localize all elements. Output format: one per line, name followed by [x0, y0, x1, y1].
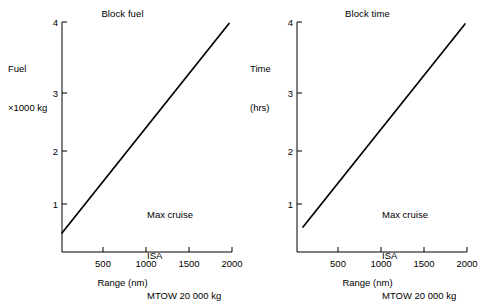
y-axis-label-line-1: Fuel [8, 62, 47, 75]
y-axis-label-line-1: Time [250, 62, 271, 75]
y-tick-label-2: 2 [279, 146, 293, 157]
annotation-line-2: ISA [147, 249, 221, 263]
y-axis-label-block-fuel: Fuel ×1000 kg [8, 36, 47, 140]
annotation-block-time: Max cruise ISA MTOW 20 000 kg [382, 181, 456, 305]
annotation-line-3: MTOW 20 000 kg [382, 289, 456, 303]
y-tick-label-2: 2 [44, 146, 58, 157]
annotation-line-1: Max cruise [382, 208, 456, 222]
chart-panel-block-time: Block time 4 3 2 1 500 1000 1500 2000 Ti… [245, 0, 490, 299]
y-tick-label-4: 4 [44, 17, 58, 28]
annotation-line-1: Max cruise [147, 208, 221, 222]
y-axis-label-line-2: ×1000 kg [8, 101, 47, 114]
y-tick-label-1: 1 [279, 199, 293, 210]
y-tick-label-4: 4 [279, 17, 293, 28]
y-tick-label-1: 1 [44, 199, 58, 210]
annotation-line-2: ISA [382, 249, 456, 263]
x-tick-label-500: 500 [86, 258, 120, 269]
annotation-line-3: MTOW 20 000 kg [147, 289, 221, 303]
chart-panel-block-fuel: Block fuel 4 3 2 1 500 1000 1500 [0, 0, 245, 299]
y-axis-label-line-2: (hrs) [250, 101, 271, 114]
annotation-block-fuel: Max cruise ISA MTOW 20 000 kg [147, 181, 221, 305]
y-tick-label-3: 3 [279, 88, 293, 99]
x-tick-label-500: 500 [321, 258, 355, 269]
y-axis-label-block-time: Time (hrs) [250, 36, 271, 140]
